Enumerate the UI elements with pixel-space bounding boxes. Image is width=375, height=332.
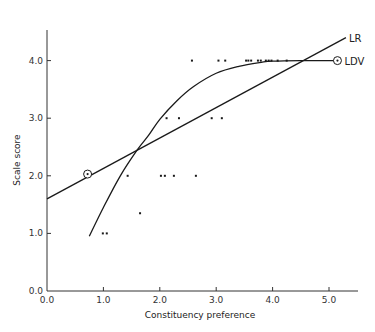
- data-point: [164, 175, 166, 177]
- series-line-ldv: [89, 61, 337, 237]
- data-point: [217, 60, 219, 62]
- data-point: [247, 60, 249, 62]
- x-tick-label: 2.0: [153, 295, 168, 305]
- y-tick-label: 1.0: [29, 228, 44, 238]
- marker-dot: [87, 173, 89, 175]
- data-point: [139, 212, 141, 214]
- y-tick-label: 3.0: [29, 113, 44, 123]
- data-point: [195, 175, 197, 177]
- data-point: [127, 175, 129, 177]
- y-tick-label: 0.0: [29, 286, 44, 296]
- data-point: [245, 60, 247, 62]
- y-tick-label: 4.0: [29, 56, 44, 66]
- data-point: [260, 60, 262, 62]
- x-tick-label: 3.0: [209, 295, 224, 305]
- x-ticks: 0.01.02.03.04.05.0: [40, 287, 337, 305]
- data-point: [211, 117, 213, 119]
- data-point: [265, 60, 267, 62]
- x-tick-label: 4.0: [265, 295, 280, 305]
- data-point: [166, 117, 168, 119]
- data-point: [268, 60, 270, 62]
- data-point: [102, 232, 104, 234]
- x-tick-label: 1.0: [96, 295, 111, 305]
- data-point: [191, 60, 193, 62]
- x-tick-label: 0.0: [40, 295, 55, 305]
- data-point: [160, 175, 162, 177]
- data-point: [106, 232, 108, 234]
- chart-canvas: 0.01.02.03.04.05.0 0.01.02.03.04.0 Const…: [0, 0, 375, 332]
- data-point: [270, 60, 272, 62]
- data-point: [250, 60, 252, 62]
- data-point: [277, 60, 279, 62]
- marker-dot: [336, 60, 338, 62]
- x-axis-label: Constituency preference: [145, 310, 256, 320]
- data-point: [178, 117, 180, 119]
- y-ticks: 0.01.02.03.04.0: [29, 56, 51, 296]
- y-axis-label: Scale score: [12, 134, 22, 186]
- data-point: [173, 175, 175, 177]
- series-label-lr: LR: [349, 33, 362, 44]
- x-tick-label: 5.0: [322, 295, 337, 305]
- series-label-ldv: LDV: [344, 56, 364, 67]
- data-point: [286, 60, 288, 62]
- data-point: [224, 60, 226, 62]
- series-labels: LRLDV: [344, 33, 364, 67]
- axes: 0.01.02.03.04.05.0 0.01.02.03.04.0: [29, 30, 358, 305]
- data-point: [221, 117, 223, 119]
- y-tick-label: 2.0: [29, 171, 44, 181]
- series-lines: [47, 38, 346, 237]
- data-point: [257, 60, 259, 62]
